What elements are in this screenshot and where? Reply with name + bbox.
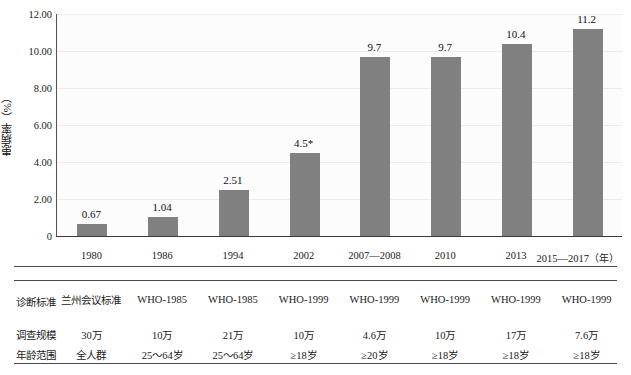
table-rule [14, 266, 617, 267]
bar-value-label: 9.7 [368, 41, 382, 53]
gridline [57, 125, 622, 126]
plot-area [56, 14, 622, 236]
table-cell: 10万 [435, 327, 456, 342]
table-cell: 17万 [506, 327, 527, 342]
x-tick-2002: 2002 [293, 250, 314, 261]
table-row-label: 调查规模 [16, 327, 56, 342]
bar-2010 [431, 57, 461, 236]
y-axis-tick-labels: 02.004.006.008.0010.0012.00 [0, 0, 52, 248]
bar-1980 [77, 224, 107, 236]
table-cell: WHO-1999 [491, 294, 541, 305]
y-tick-0: 0 [47, 231, 52, 242]
table-cell: WHO-1999 [279, 294, 329, 305]
table-cell: WHO-1999 [350, 294, 400, 305]
gridline [57, 88, 622, 89]
table-cell: WHO-1985 [208, 294, 258, 305]
table-row-label: 诊断标准 [16, 294, 56, 309]
table-cell: ≥20岁 [361, 347, 387, 362]
gridline [57, 51, 622, 52]
table-row-label: 年龄范围 [16, 347, 56, 362]
bar-value-label: 2.51 [223, 174, 242, 186]
table-cell: 25～64岁 [142, 347, 183, 362]
x-tick-1980: 1980 [81, 250, 102, 261]
gridline [57, 199, 622, 200]
table-cell: 7.6万 [575, 327, 598, 342]
gridline [57, 14, 622, 15]
gridline [57, 162, 622, 163]
y-tick-10.00: 10.00 [28, 46, 52, 57]
table-rule [14, 363, 617, 364]
bar-value-label: 4.5* [294, 137, 313, 149]
x-tick-2010: 2010 [435, 250, 456, 261]
table-cell: WHO-1999 [562, 294, 612, 305]
x-tick-2013: 2013 [505, 250, 526, 261]
table-cell: WHO-1985 [137, 294, 187, 305]
y-tick-12.00: 12.00 [28, 9, 52, 20]
table-rule [14, 280, 617, 281]
x-tick-1994: 1994 [222, 250, 243, 261]
x-tick-1986: 1986 [152, 250, 173, 261]
table-cell: 10万 [293, 327, 314, 342]
x-axis-unit: （年） [589, 253, 619, 264]
table-cell: ≥18岁 [290, 347, 316, 362]
table-cell: 兰州会议标准 [60, 294, 122, 308]
table-cell: ≥18岁 [432, 347, 458, 362]
table-cell: 10万 [152, 327, 173, 342]
bar-value-label: 0.67 [82, 208, 101, 220]
y-tick-6.00: 6.00 [34, 120, 52, 131]
table-cell: 全人群 [76, 347, 106, 362]
table-cell: 30万 [81, 327, 102, 342]
bar-2015—2017 [573, 29, 603, 236]
table-cell: 4.6万 [363, 327, 386, 342]
table-cell: 21万 [223, 327, 244, 342]
bar-value-label: 11.2 [577, 13, 596, 25]
table-cell: ≥18岁 [573, 347, 599, 362]
bar-1994 [219, 190, 249, 236]
bar-chart: 患病率（%） 02.004.006.008.0010.0012.00 19801… [0, 0, 631, 248]
y-tick-4.00: 4.00 [34, 157, 52, 168]
bar-2013 [502, 44, 532, 236]
bar-value-label: 1.04 [153, 201, 172, 213]
table-cell: 25～64岁 [212, 347, 253, 362]
x-axis-line [56, 236, 622, 237]
y-tick-2.00: 2.00 [34, 194, 52, 205]
table-cell: WHO-1999 [420, 294, 470, 305]
table-cell: ≥18岁 [503, 347, 529, 362]
figure-root: 患病率（%） 02.004.006.008.0010.0012.00 19801… [0, 0, 631, 375]
bar-value-label: 10.4 [506, 28, 525, 40]
bar-2007—2008 [360, 57, 390, 236]
x-tick-2007—2008: 2007—2008 [348, 250, 401, 261]
data-table: 诊断标准兰州会议标准WHO-1985WHO-1985WHO-1999WHO-19… [0, 266, 631, 375]
y-tick-8.00: 8.00 [34, 83, 52, 94]
x-tick-2015—2017: 2015—2017（年） [536, 250, 619, 265]
bar-value-label: 9.7 [438, 41, 452, 53]
bar-2002 [290, 153, 320, 236]
bar-1986 [148, 217, 178, 236]
